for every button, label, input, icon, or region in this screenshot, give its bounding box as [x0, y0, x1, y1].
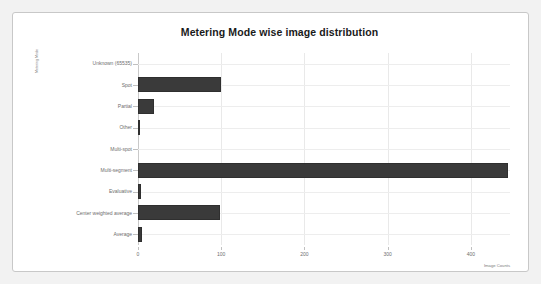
- y-tick-label: Center weighted average: [76, 210, 132, 217]
- bar-row: [138, 138, 510, 159]
- bar: [138, 120, 140, 135]
- bar-row: [138, 117, 510, 138]
- bar: [138, 205, 220, 220]
- y-axis-tick-labels: Unknown (65535)SpotPartialOtherMulti-spo…: [53, 53, 132, 245]
- bar-row: [138, 224, 510, 245]
- chart-title: Metering Mode wise image distribution: [13, 26, 528, 38]
- x-tick-label: 400: [467, 251, 475, 257]
- x-tick-mark-100: [221, 247, 222, 250]
- x-tick-label: 0: [137, 251, 140, 257]
- x-axis-tick-labels: 0100200300400: [138, 247, 510, 261]
- y-tick-label: Unknown (65535): [93, 60, 132, 67]
- y-axis-title-label: Metering Mode: [32, 49, 42, 93]
- chart-panel: Metering Mode wise image distribution Me…: [12, 12, 529, 272]
- y-tick-label: Other: [119, 124, 132, 131]
- x-tick-mark-200: [304, 247, 305, 250]
- x-tick-label: 200: [300, 251, 308, 257]
- bar: [138, 77, 221, 92]
- y-axis-title: Metering Mode: [32, 5, 42, 49]
- bar-row: [138, 74, 510, 95]
- bar-row: [138, 202, 510, 223]
- bar: [138, 227, 142, 242]
- x-tick-mark-400: [471, 247, 472, 250]
- x-axis-title: Image Counts: [484, 263, 510, 268]
- y-tick-label: Average: [113, 231, 132, 238]
- x-tick-mark-0: [138, 247, 139, 250]
- bar-row: [138, 181, 510, 202]
- figure-root: Metering Mode wise image distribution Me…: [0, 0, 541, 284]
- bar-row: [138, 96, 510, 117]
- x-tick-label: 100: [217, 251, 225, 257]
- bar: [138, 184, 141, 199]
- x-tick-mark-300: [388, 247, 389, 250]
- y-tick-label: Spot: [122, 82, 132, 89]
- y-tick-label: Multi-segment: [101, 167, 132, 174]
- y-tick-label: Multi-spot: [110, 146, 132, 153]
- bar-row: [138, 53, 510, 74]
- bar: [138, 99, 154, 114]
- bar-row: [138, 160, 510, 181]
- plot-area: [138, 53, 510, 245]
- x-tick-label: 300: [383, 251, 391, 257]
- y-tick-label: Evaluative: [109, 188, 132, 195]
- bar: [138, 163, 508, 178]
- y-tick-label: Partial: [118, 103, 132, 110]
